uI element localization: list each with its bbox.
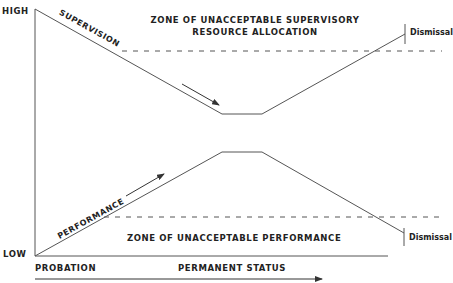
performance-zone-label: ZONE OF UNACCEPTABLE PERFORMANCE <box>127 232 341 244</box>
y-low-label: LOW <box>3 249 27 259</box>
performance-dismissal-label: Dismissal <box>409 233 452 242</box>
supervision-dismissal-label: Dismissal <box>410 28 453 37</box>
x-permanent-label: PERMANENT STATUS <box>178 263 286 273</box>
performance-trend-arrow <box>126 174 164 196</box>
supervisory-zone-label: ZONE OF UNACCEPTABLE SUPERVISORY RESOURC… <box>140 14 370 38</box>
supervisory-zone-line1: ZONE OF UNACCEPTABLE SUPERVISORY <box>140 14 370 26</box>
supervisory-zone-line2: RESOURCE ALLOCATION <box>140 26 370 38</box>
x-probation-label: PROBATION <box>35 263 96 273</box>
y-high-label: HIGH <box>2 6 29 16</box>
